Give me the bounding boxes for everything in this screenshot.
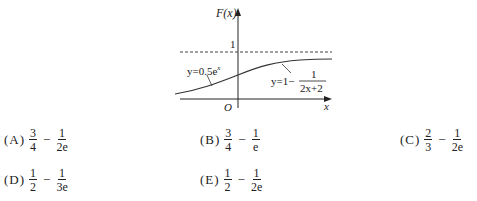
option-label: (C): [400, 132, 420, 148]
minus-sign: −: [238, 172, 245, 188]
option-label: (E): [200, 172, 220, 188]
fraction: 1e: [252, 127, 260, 153]
right-label-leader: [282, 64, 291, 73]
right-curve-label: y=1−: [271, 75, 294, 87]
option-b[interactable]: (B) 34 − 1e: [200, 127, 260, 153]
fraction: 12e: [251, 167, 262, 193]
fraction: 34: [29, 127, 37, 153]
option-d[interactable]: (D) 12 − 13e: [4, 167, 68, 193]
fraction: 12e: [452, 127, 463, 153]
minus-sign: −: [43, 172, 50, 188]
fraction: 34: [224, 127, 232, 153]
right-curve-frac-num: 1: [311, 68, 317, 80]
fraction: 12: [224, 167, 232, 193]
option-label: (A): [4, 132, 25, 148]
fraction: 23: [424, 127, 432, 153]
y-axis-label: F(x): [215, 6, 237, 20]
minus-sign: −: [43, 132, 50, 148]
right-curve-frac-den: 2x+2: [300, 82, 323, 94]
asymptote-label: 1: [230, 38, 236, 50]
fraction: 12: [29, 167, 37, 193]
x-axis-label: x: [323, 100, 329, 112]
option-e[interactable]: (E) 12 − 12e: [200, 167, 262, 193]
option-label: (B): [200, 132, 220, 148]
fraction: 12e: [56, 127, 67, 153]
minus-sign: −: [238, 132, 245, 148]
fraction: 13e: [56, 167, 67, 193]
left-curve-label: y=0.5ex: [187, 64, 221, 77]
origin-label: O: [224, 101, 232, 113]
option-a[interactable]: (A) 34 − 12e: [4, 127, 68, 153]
option-c[interactable]: (C) 23 − 12e: [400, 127, 463, 153]
distribution-function-graph: F(x) x O 1 y=0.5ex y=1− 1 2x+2: [0, 0, 477, 120]
option-label: (D): [4, 172, 25, 188]
minus-sign: −: [438, 132, 445, 148]
